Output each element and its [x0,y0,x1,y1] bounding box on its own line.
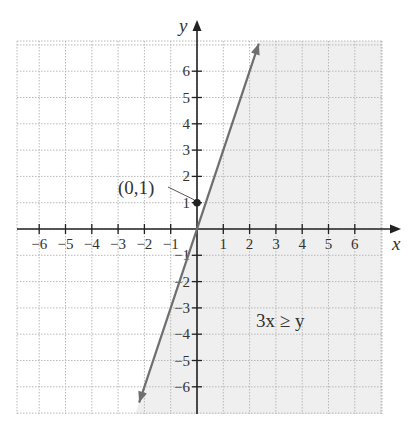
point-leader-line [168,187,194,200]
shaded-region [135,41,382,414]
x-tick-label: 5 [325,236,333,252]
y-tick-label: 2 [183,168,191,184]
y-tick-label: 3 [183,142,191,158]
y-axis-arrow-icon [193,20,202,31]
shaded-area [135,41,382,414]
x-tick-label: −3 [110,236,126,252]
y-axis-label: y [177,15,188,36]
point-marker [193,199,201,207]
y-tick-label: −5 [174,353,190,369]
x-tick-label: −5 [58,236,74,252]
y-tick-label: −4 [174,326,190,342]
inequality-graph: −6−5−4−3−2−1123456654321−1−2−3−4−5−6 x y… [0,0,411,427]
y-tick-label: 5 [183,90,191,106]
x-tick-label: −4 [84,236,100,252]
x-tick-label: 2 [246,236,254,252]
x-tick-label: 6 [351,236,359,252]
y-tick-label: 4 [183,116,191,132]
x-tick-label: 1 [220,236,228,252]
y-tick-label: −6 [174,379,190,395]
x-axis-label: x [391,233,401,254]
y-tick-label: −3 [174,300,190,316]
y-tick-label: 6 [183,63,191,79]
inequality-label: 3x ≥ y [256,310,305,331]
x-tick-label: 3 [272,236,280,252]
x-tick-label: −6 [31,236,47,252]
x-tick-label: −2 [136,236,152,252]
x-tick-label: 4 [298,236,306,252]
point-label: (0,1) [118,177,154,199]
